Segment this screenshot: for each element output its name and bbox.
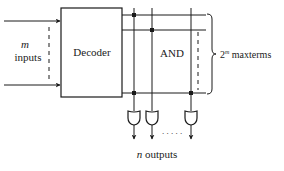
or-gates (128, 111, 197, 125)
or-gate-icon (146, 111, 158, 125)
crosspoint-mark (150, 28, 154, 32)
or-gate-icon (185, 111, 197, 125)
outputs-ellipsis: . . . . . (162, 126, 182, 136)
outputs-text: outputs (142, 148, 177, 160)
maxterms-brace-icon (207, 14, 216, 94)
maxterms-text: maxterms (229, 49, 271, 60)
crosspoint-mark (189, 91, 193, 95)
crosspoint-mark (132, 91, 136, 95)
inputs-label-text: inputs (15, 51, 42, 63)
decoder-label: Decoder (73, 46, 111, 58)
and-label: AND (160, 47, 184, 59)
decoder-and-or-diagram: m inputs Decoder AND 2m maxterms (0, 0, 284, 171)
outputs-label: n outputs (137, 148, 178, 160)
inputs-label-var: m (21, 38, 29, 50)
or-gate-icon (128, 111, 140, 125)
maxterms-label: 2m maxterms (220, 49, 271, 60)
product-lines (134, 8, 198, 111)
crosspoint-mark (132, 13, 136, 17)
